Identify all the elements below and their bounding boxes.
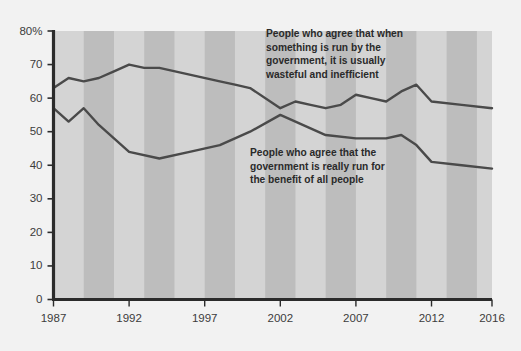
plot-stripe bbox=[205, 31, 235, 300]
x-axis-tick-label: 2002 bbox=[268, 312, 294, 324]
y-axis-tick-label: 30 bbox=[30, 192, 43, 204]
x-axis-tick-label: 1997 bbox=[192, 312, 218, 324]
y-axis-tick-label: 80% bbox=[19, 25, 42, 37]
x-axis-tick-label: 2016 bbox=[479, 312, 505, 324]
plot-stripe bbox=[386, 31, 416, 300]
y-axis-tick-label: 40 bbox=[30, 159, 43, 171]
annotation-line: government is really run for bbox=[250, 161, 385, 172]
annotation-line: People who agree that when bbox=[266, 28, 403, 39]
x-axis-tick-label: 2012 bbox=[419, 312, 445, 324]
y-axis-tick-label: 0 bbox=[36, 293, 42, 305]
chart-container: 01020304050607080% 198719921997200220072… bbox=[0, 0, 521, 351]
annotation-line: government, it is usually bbox=[266, 55, 386, 66]
x-axis-tick-label: 2007 bbox=[343, 312, 369, 324]
y-axis-tick-label: 70 bbox=[30, 58, 43, 70]
annotation-line: the benefit of all people bbox=[250, 174, 364, 185]
x-axis-tick-label: 1992 bbox=[116, 312, 142, 324]
y-axis-tick-label: 20 bbox=[30, 226, 43, 238]
x-axis-tick-label: 1987 bbox=[41, 312, 67, 324]
plot-stripe bbox=[84, 31, 114, 300]
annotation-line: something is run by the bbox=[266, 42, 381, 53]
y-axis-tick-label: 10 bbox=[30, 259, 43, 271]
y-axis-tick-label: 60 bbox=[30, 92, 43, 104]
annotation-line: wasteful and inefficient bbox=[265, 69, 379, 80]
annotation-line: People who agree that the bbox=[250, 147, 377, 158]
line-chart: 01020304050607080% 198719921997200220072… bbox=[0, 0, 521, 351]
y-axis-tick-label: 50 bbox=[30, 125, 43, 137]
